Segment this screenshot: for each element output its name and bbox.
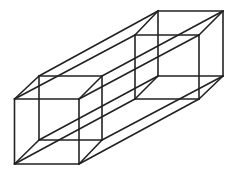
wireframe-edges <box>15 11 224 164</box>
edge-RF_BL-RB_BL <box>135 76 158 99</box>
edge-LF_BR-LB_BR <box>79 140 102 164</box>
edge-RF_TR-RB_TR <box>199 11 223 35</box>
edge-RF_TL-RB_TL <box>135 11 158 35</box>
edge-LF_TR-LB_TR <box>79 76 102 99</box>
wireframe-box-diagram <box>0 0 235 171</box>
edge-LF_TL-RF_TL <box>15 35 136 99</box>
edge-LB_BR-RB_BR <box>102 76 223 140</box>
